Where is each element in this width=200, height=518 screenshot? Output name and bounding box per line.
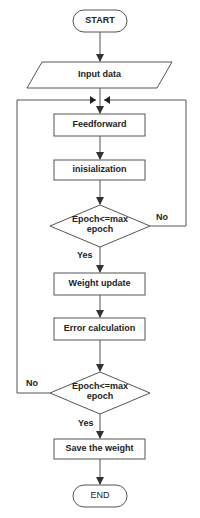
input-data-label: Input data bbox=[27, 69, 172, 79]
decision1-no-label: No bbox=[156, 212, 168, 222]
save-weight-label: Save the weight bbox=[54, 443, 145, 453]
decision1-label-line2: epoch bbox=[50, 224, 150, 234]
merge-arrow-right-icon bbox=[104, 96, 110, 104]
edge-decision2-no-loop bbox=[17, 100, 96, 393]
feedforward-label: Feedforward bbox=[54, 119, 145, 129]
weight-update-label: Weight update bbox=[54, 278, 145, 288]
end-label: END bbox=[73, 490, 127, 500]
start-label: START bbox=[73, 15, 127, 25]
initialization-label: inisialization bbox=[54, 164, 145, 174]
decision1-yes-label: Yes bbox=[77, 250, 93, 260]
merge-arrow-left-icon bbox=[90, 96, 96, 104]
decision2-no-label: No bbox=[26, 378, 38, 388]
decision2-label-line1: Epoch<=max bbox=[50, 381, 150, 391]
decision1-label-line1: Epoch<=max bbox=[50, 214, 150, 224]
error-calculation-label: Error calculation bbox=[54, 323, 145, 333]
decision2-label-line2: epoch bbox=[50, 391, 150, 401]
decision2-yes-label: Yes bbox=[78, 418, 94, 428]
